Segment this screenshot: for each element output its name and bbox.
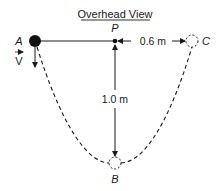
diagram-title: Overhead View: [77, 8, 152, 20]
ball-position-b: [109, 157, 121, 169]
ball-position-c: [186, 35, 198, 47]
dimension-horizontal: 0.6 m: [140, 35, 167, 47]
ball-at-a: [29, 35, 41, 47]
label-a: A: [14, 35, 22, 47]
label-b: B: [111, 173, 118, 185]
overhead-view-diagram: Overhead View A V P 0.6 m C 1.0 m B: [0, 0, 217, 191]
label-velocity: V: [15, 55, 23, 67]
point-p: [113, 39, 118, 44]
dimension-vertical: 1.0 m: [102, 93, 129, 105]
label-c: C: [202, 35, 210, 47]
label-p: P: [111, 22, 119, 34]
